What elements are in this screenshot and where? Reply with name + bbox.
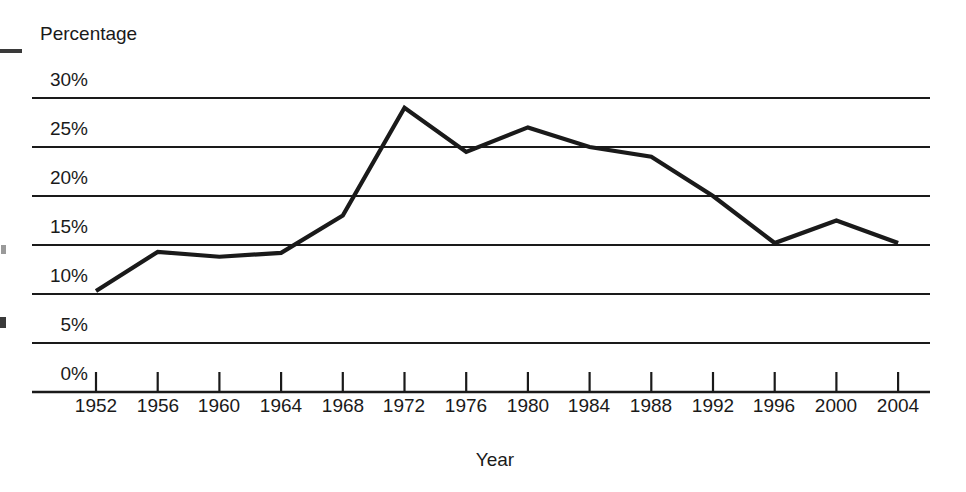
x-axis-ticks: [96, 372, 898, 392]
chart-figure: Percentage 30% 25% 20% 15% 10% 5% 0% 195…: [0, 0, 966, 492]
plot-area: [0, 0, 966, 492]
data-line-percentage: [96, 108, 898, 291]
gridlines: [32, 98, 930, 392]
